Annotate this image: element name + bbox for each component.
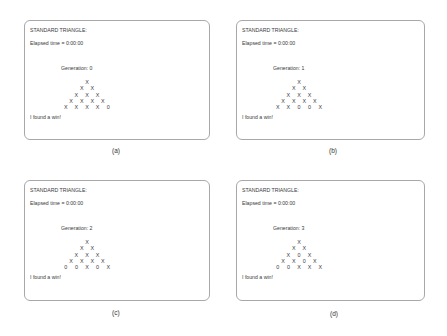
peg-filled[interactable]: X (63, 104, 69, 110)
peg-filled[interactable]: X (84, 92, 90, 98)
peg-filled[interactable]: X (312, 258, 318, 264)
peg-empty[interactable]: 0 (73, 264, 79, 270)
peg-filled[interactable]: X (296, 264, 302, 270)
peg-filled[interactable]: X (100, 258, 106, 264)
peg-filled[interactable]: X (73, 92, 79, 98)
peg-filled[interactable]: X (291, 245, 297, 251)
peg-filled[interactable]: X (89, 85, 95, 91)
peg-filled[interactable]: X (312, 98, 318, 104)
peg-empty[interactable]: 0 (296, 104, 302, 110)
peg-filled[interactable]: X (79, 98, 85, 104)
peg-triangle: XXXX0XXX0X00XXX (237, 181, 424, 300)
peg-empty[interactable]: 0 (301, 258, 307, 264)
peg-filled[interactable]: X (296, 239, 302, 245)
peg-filled[interactable]: X (301, 245, 307, 251)
peg-filled[interactable]: X (296, 92, 302, 98)
peg-empty[interactable]: 0 (95, 264, 101, 270)
peg-filled[interactable]: X (89, 245, 95, 251)
peg-filled[interactable]: X (95, 92, 101, 98)
peg-filled[interactable]: X (307, 252, 313, 258)
window-panel-a: STANDARD TRIANGLE: Elapsed time = 0:00:0… (24, 20, 210, 140)
peg-filled[interactable]: X (89, 98, 95, 104)
peg-filled[interactable]: X (280, 258, 286, 264)
peg-filled[interactable]: X (105, 264, 111, 270)
peg-filled[interactable]: X (79, 258, 85, 264)
peg-filled[interactable]: X (317, 104, 323, 110)
peg-filled[interactable]: X (291, 258, 297, 264)
status-message: I found a win! (242, 114, 273, 120)
caption-a: (a) (112, 147, 120, 154)
status-message: I found a win! (242, 274, 273, 280)
peg-filled[interactable]: X (280, 98, 286, 104)
window-panel-d: STANDARD TRIANGLE: Elapsed time = 0:00:0… (236, 180, 425, 301)
peg-filled[interactable]: X (68, 98, 74, 104)
caption-b: (b) (329, 147, 337, 154)
peg-filled[interactable]: X (79, 245, 85, 251)
window-panel-c: STANDARD TRIANGLE: Elapsed time = 0:00:0… (24, 180, 210, 301)
peg-filled[interactable]: X (95, 104, 101, 110)
peg-filled[interactable]: X (84, 239, 90, 245)
peg-filled[interactable]: X (285, 92, 291, 98)
peg-filled[interactable]: X (95, 252, 101, 258)
peg-filled[interactable]: X (89, 258, 95, 264)
peg-empty[interactable]: 0 (275, 264, 281, 270)
peg-filled[interactable]: X (285, 104, 291, 110)
peg-filled[interactable]: X (317, 264, 323, 270)
peg-empty[interactable]: 0 (285, 264, 291, 270)
status-message: I found a win! (30, 114, 61, 120)
peg-triangle: XXXXXXXXXX00X0X (25, 181, 209, 300)
caption-d: (d) (330, 310, 338, 317)
peg-filled[interactable]: X (79, 85, 85, 91)
peg-triangle: XXXXXXXXXXXX00X (237, 21, 424, 139)
peg-filled[interactable]: X (84, 264, 90, 270)
peg-filled[interactable]: X (84, 104, 90, 110)
peg-filled[interactable]: X (291, 98, 297, 104)
peg-empty[interactable]: 0 (63, 264, 69, 270)
peg-filled[interactable]: X (307, 264, 313, 270)
peg-filled[interactable]: X (68, 258, 74, 264)
peg-filled[interactable]: X (84, 79, 90, 85)
status-message: I found a win! (30, 274, 61, 280)
peg-filled[interactable]: X (73, 252, 79, 258)
peg-filled[interactable]: X (100, 98, 106, 104)
peg-filled[interactable]: X (301, 85, 307, 91)
peg-empty[interactable]: 0 (296, 252, 302, 258)
peg-filled[interactable]: X (285, 252, 291, 258)
peg-triangle: XXXXXXXXXXXXXX0 (25, 21, 209, 139)
caption-c: (c) (112, 309, 120, 316)
window-panel-b: STANDARD TRIANGLE: Elapsed time = 0:00:0… (236, 20, 425, 140)
peg-filled[interactable]: X (301, 98, 307, 104)
peg-empty[interactable]: 0 (105, 104, 111, 110)
peg-filled[interactable]: X (84, 252, 90, 258)
peg-empty[interactable]: 0 (307, 104, 313, 110)
peg-filled[interactable]: X (73, 104, 79, 110)
peg-filled[interactable]: X (296, 79, 302, 85)
peg-filled[interactable]: X (307, 92, 313, 98)
peg-filled[interactable]: X (291, 85, 297, 91)
peg-filled[interactable]: X (275, 104, 281, 110)
